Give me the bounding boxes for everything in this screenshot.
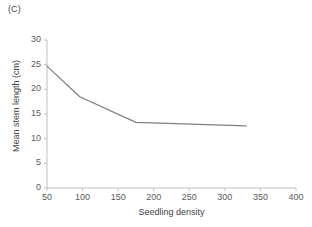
x-tick-label: 300 [205, 193, 245, 202]
y-tick-label: 30 [23, 35, 41, 44]
data-series-line [47, 66, 246, 126]
y-tick-label: 10 [23, 134, 41, 143]
y-tick-label: 0 [23, 183, 41, 192]
x-axis-title: Seedling density [47, 207, 296, 217]
x-tick-label: 400 [276, 193, 312, 202]
chart-figure: (C) 051015202530 50100150200250300350400… [0, 0, 312, 227]
x-tick-label: 100 [63, 193, 103, 202]
y-axis-title: Mean stem length (cm) [11, 41, 21, 171]
x-tick-label: 250 [169, 193, 209, 202]
y-tick-label: 25 [23, 60, 41, 69]
y-tick-label: 15 [23, 109, 41, 118]
x-tick-label: 150 [98, 193, 138, 202]
y-tick-label: 5 [23, 158, 41, 167]
x-tick-label: 50 [27, 193, 67, 202]
y-tick-label: 20 [23, 84, 41, 93]
x-tick-label: 350 [240, 193, 280, 202]
x-tick-label: 200 [134, 193, 174, 202]
x-axis-tick-labels: 50100150200250300350400 [0, 193, 312, 207]
